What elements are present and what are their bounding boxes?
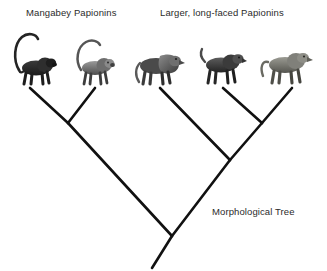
branch-tip-2 [68,88,95,123]
branch-root-stem [152,236,172,268]
phylogenetic-tree-figure: Mangabey Papionins Larger, long-faced Pa… [0,0,327,271]
branch-tip-4 [223,88,262,123]
branch-baboon-clade-to-root [172,160,230,236]
branch-tip-1 [30,88,68,123]
branch-baboon-pair-to-clade [230,123,262,160]
branch-tip-5 [262,88,292,123]
branch-tip-3 [160,88,230,160]
cladogram-branches [0,0,327,271]
branch-mangabey-clade-to-root [68,123,172,236]
